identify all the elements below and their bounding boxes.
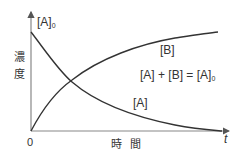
equation-label: [A] + [B] = [A]0 bbox=[140, 68, 215, 82]
x-axis-title: 時間 bbox=[111, 138, 149, 151]
origin-label: 0 bbox=[27, 136, 33, 148]
a0-label: [A]0 bbox=[37, 15, 56, 29]
series-b-label: [B] bbox=[160, 43, 175, 57]
chart: [A]0 [B] [A] [A] + [B] = [A]0 0 t 時間 濃度 bbox=[0, 0, 239, 159]
y-axis-title: 濃度 bbox=[12, 50, 26, 85]
series-a-label: [A] bbox=[133, 96, 148, 110]
x-axis-end-label: t bbox=[224, 132, 228, 146]
